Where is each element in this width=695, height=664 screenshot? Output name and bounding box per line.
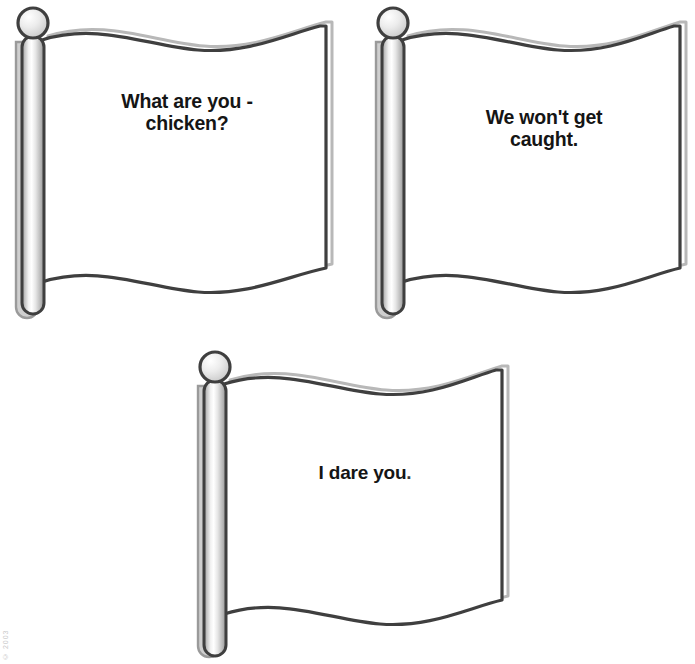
flag-cloth-3 — [224, 370, 502, 625]
flagpole-2 — [382, 36, 404, 314]
flag-drawing-3 — [180, 338, 510, 664]
corner-credit-text: © 2003 — [2, 602, 16, 660]
pole-knob-3 — [200, 352, 230, 382]
flag-unit-3: I dare you. — [180, 338, 510, 664]
pole-knob-1 — [18, 8, 48, 38]
flag-drawing-2 — [366, 2, 695, 332]
flagpole-1 — [22, 36, 44, 314]
worksheet-canvas: What are you -chicken? — [0, 0, 695, 664]
pole-knob-2 — [378, 8, 408, 38]
flag-cloth-2 — [402, 26, 680, 293]
flag-drawing-1 — [4, 2, 344, 332]
flag-unit-2: We won't getcaught. — [366, 2, 695, 332]
flagpole-3 — [204, 380, 226, 656]
flag-unit-1: What are you -chicken? — [4, 2, 344, 332]
flag-cloth-1 — [42, 26, 326, 293]
